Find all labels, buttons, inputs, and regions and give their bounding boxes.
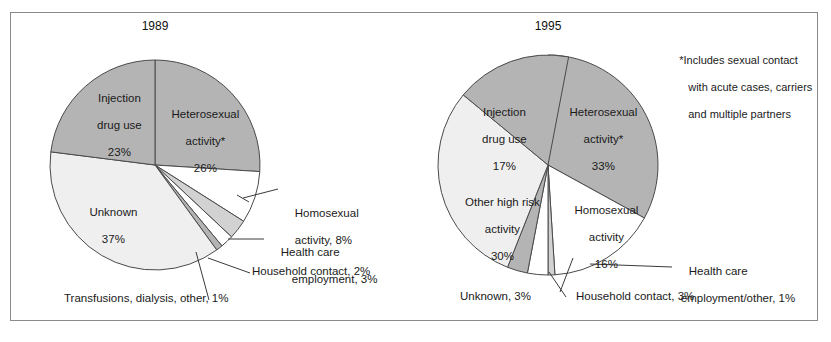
label-line-2: 37% (102, 233, 125, 245)
label-line-1: Injection (483, 106, 526, 118)
slice-label-homosexual-activity-1995: Homosexual activity 16% (562, 190, 639, 285)
slice-label-injection-drug-use-1989: Injection drug use 23% (84, 78, 142, 173)
callout-household-contact-1989: Household contact, 2% (252, 265, 370, 279)
footnote-line-3: and multiple partners (688, 108, 791, 120)
label-line-2: drug use (97, 119, 142, 131)
label-line-2: activity (589, 231, 624, 243)
label-line-3: 26% (194, 162, 217, 174)
label-line-2: activity (485, 223, 520, 235)
callout-transfusions-dialysis-other-1989: Transfusions, dialysis, other, 1% (64, 292, 228, 306)
callout-line-1: Health care (689, 265, 748, 277)
label-line-1: Heterosexual (570, 106, 638, 118)
label-line-2: activity* (584, 133, 624, 145)
footnote-line-2: with acute cases, carriers (688, 81, 812, 93)
label-line-1: Homosexual (574, 204, 638, 216)
label-line-3: 17% (493, 160, 516, 172)
label-line-1: Unknown (89, 206, 137, 218)
label-line-1: Heterosexual (172, 108, 240, 120)
label-line-2: activity* (186, 135, 226, 147)
callout-line-1: Homosexual (295, 207, 359, 219)
chart-title-1995: 1995 (535, 20, 562, 34)
slice-label-heterosexual-activity-1989: Heterosexual activity* 26% (159, 94, 240, 189)
label-line-3: 16% (595, 258, 618, 270)
slice-label-injection-drug-use-1995: Injection drug use 17% (469, 92, 527, 187)
chart-title-1989: 1989 (142, 20, 169, 34)
callout-line-2: employment/other, 1% (681, 292, 795, 304)
slice-label-other-high-risk-activity-1995: Other high risk activity 30% (452, 182, 540, 277)
slice-label-heterosexual-activity-1995: Heterosexual activity* 33% (557, 92, 638, 187)
label-line-3: 23% (108, 146, 131, 158)
figure-root: 1989 Injection drug use 23% Heterosexual… (0, 0, 831, 342)
label-line-2: drug use (482, 133, 527, 145)
footnote-line-1: *Includes sexual contact (679, 54, 798, 66)
callout-health-care-employment-other-1995: Health care employment/other, 1% (676, 251, 795, 319)
callout-household-contact-1995: Household contact, 3% (576, 290, 694, 304)
label-line-1: Injection (98, 92, 141, 104)
label-line-3: 33% (592, 160, 615, 172)
callout-line-1: Health care (281, 246, 340, 258)
callout-unknown-1995: Unknown, 3% (460, 290, 531, 304)
label-line-3: 30% (491, 250, 514, 262)
slice-label-unknown-1989: Unknown 37% (77, 192, 138, 260)
footnote-block: *Includes sexual contact with acute case… (667, 40, 812, 135)
label-line-1: Other high risk (465, 196, 540, 208)
